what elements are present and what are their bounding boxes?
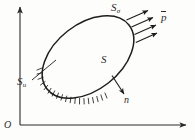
figure-container: Sσ Su S n p O [0, 0, 195, 140]
displacement-boundary-subscript: u [23, 81, 26, 88]
traction-arrow [132, 18, 154, 28]
traction-vector-symbol: p [161, 11, 167, 23]
body-outline [27, 0, 150, 115]
traction-boundary-base: S [111, 1, 117, 13]
outward-normal-arrow [112, 76, 124, 95]
traction-vector-label: p [161, 11, 167, 23]
body-outline-group [27, 0, 150, 115]
coordinate-axes [20, 7, 186, 125]
displacement-boundary-hatching [37, 68, 108, 105]
traction-boundary-subscript: σ [117, 7, 120, 14]
origin-label: O [4, 120, 11, 130]
displacement-boundary-base: S [17, 75, 23, 87]
traction-arrow [127, 11, 149, 21]
displacement-boundary-label: Su [17, 76, 26, 89]
traction-arrow [135, 25, 157, 35]
normal-vector-label: n [124, 95, 129, 105]
domain-label: S [101, 54, 107, 65]
traction-load-arrows [127, 11, 158, 43]
traction-arrow [136, 33, 157, 43]
traction-boundary-label: Sσ [111, 2, 120, 15]
